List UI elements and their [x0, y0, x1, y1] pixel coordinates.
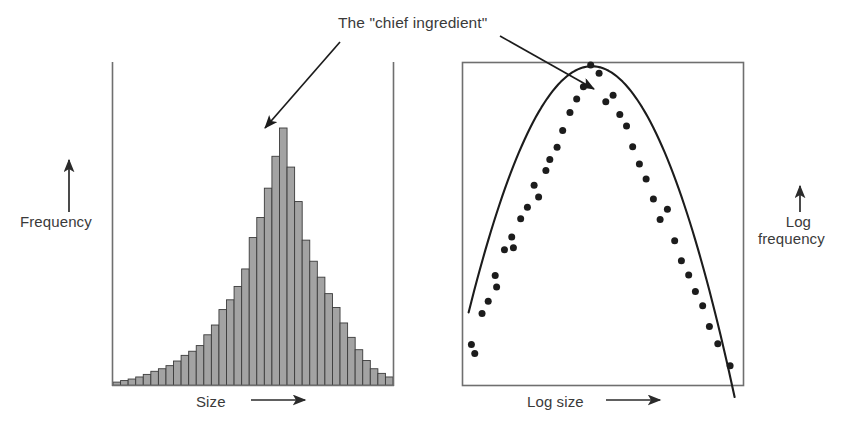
histogram-bar: [121, 381, 129, 386]
scatter-point: [542, 167, 549, 174]
histogram-bar: [355, 350, 363, 385]
scatter-point: [566, 109, 573, 116]
histogram-bar: [234, 286, 242, 385]
scatter-point: [573, 96, 580, 103]
histogram-bar: [332, 308, 340, 386]
histogram-bar: [196, 346, 204, 386]
scatter-point: [629, 143, 636, 150]
histogram-bar: [272, 156, 280, 385]
scatter-point: [685, 271, 692, 278]
histogram-bar: [151, 371, 159, 385]
scatter-point: [699, 302, 706, 309]
fitted-curve: [469, 66, 735, 397]
histogram-bar: [378, 373, 386, 385]
scatter-point: [508, 233, 515, 240]
scatter-point: [616, 111, 623, 118]
left-histogram-panel: [112, 62, 394, 386]
histogram-bar: [158, 369, 166, 385]
scatter-point: [468, 341, 475, 348]
histogram-bars: [113, 128, 393, 385]
scatter-points: [468, 61, 734, 369]
histogram-bar: [302, 240, 310, 385]
histogram-bar: [363, 361, 371, 386]
histogram-bar: [287, 167, 295, 385]
left-chart-x-axis-label: Size: [196, 393, 226, 410]
annotation-leaders: [265, 36, 594, 128]
scatter-point: [517, 215, 524, 222]
histogram-bar: [211, 325, 219, 385]
histogram-bar: [279, 128, 287, 385]
right-scatter-panel: [463, 61, 744, 397]
scatter-point: [678, 257, 685, 264]
histogram-bar: [257, 218, 265, 386]
annotation-arrow-left: [265, 42, 340, 128]
histogram-bar: [136, 377, 144, 385]
scatter-point: [714, 340, 721, 347]
histogram-bar: [370, 369, 378, 385]
scatter-point: [610, 92, 617, 99]
scatter-point: [657, 216, 664, 223]
figure-root: The "chief ingredient" Frequency Size Lo…: [0, 0, 851, 432]
scatter-point: [636, 161, 643, 168]
histogram-bar: [189, 351, 197, 385]
histogram-bar: [340, 323, 348, 385]
figure-canvas: [0, 0, 851, 432]
scatter-point: [493, 284, 500, 291]
histogram-bar: [242, 269, 250, 385]
histogram-bar: [317, 277, 325, 385]
right-y-label-line1: Log: [786, 213, 811, 230]
scatter-point: [706, 323, 713, 330]
histogram-bar: [143, 374, 151, 385]
histogram-bar: [348, 337, 356, 385]
scatter-point: [664, 206, 671, 213]
scatter-point: [671, 237, 678, 244]
histogram-bar: [181, 355, 189, 385]
histogram-bar: [219, 310, 227, 386]
scatter-point: [587, 61, 594, 68]
histogram-bar: [249, 238, 257, 386]
histogram-bar: [227, 300, 235, 385]
scatter-point: [546, 156, 553, 163]
scatter-point: [554, 144, 561, 151]
histogram-bar: [310, 261, 318, 385]
histogram-bar: [174, 361, 182, 385]
histogram-bar: [325, 294, 333, 386]
histogram-bar: [264, 188, 272, 385]
right-chart-y-axis-label: Logfrequency: [772, 213, 825, 247]
scatter-point: [643, 175, 650, 182]
scatter-point: [535, 193, 542, 200]
scatter-point: [692, 288, 699, 295]
chief-ingredient-annotation: The "chief ingredient": [338, 14, 487, 32]
scatter-point: [650, 195, 657, 202]
histogram-bar: [385, 377, 393, 385]
histogram-bar: [295, 202, 303, 386]
scatter-point: [623, 123, 630, 130]
right-y-label-line2: frequency: [758, 230, 825, 247]
right-chart-x-axis-label: Log size: [527, 393, 584, 410]
scatter-point: [524, 204, 531, 211]
scatter-point: [492, 272, 499, 279]
histogram-bar: [128, 379, 136, 385]
left-chart-y-axis-label: Frequency: [20, 213, 92, 230]
scatter-point: [510, 244, 517, 251]
scatter-point: [727, 362, 734, 369]
scatter-point: [602, 98, 609, 105]
scatter-point: [479, 310, 486, 317]
scatter-point: [559, 127, 566, 134]
scatter-point: [596, 70, 603, 77]
right-axis-frame: [463, 63, 744, 386]
histogram-bar: [166, 366, 174, 386]
scatter-point: [471, 350, 478, 357]
histogram-bar: [204, 335, 212, 385]
scatter-point: [531, 182, 538, 189]
scatter-point: [485, 298, 492, 305]
scatter-point: [501, 246, 508, 253]
